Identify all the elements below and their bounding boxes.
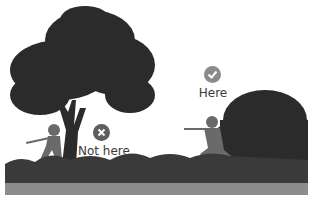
good-position-label: Here xyxy=(198,86,228,100)
bad-position-label: Not here xyxy=(78,144,128,158)
ground xyxy=(5,183,308,195)
ground-shrubs xyxy=(5,153,308,185)
scene-illustration xyxy=(0,0,313,207)
checkmark-icon xyxy=(204,66,221,83)
soldier-behind-tree xyxy=(26,124,62,160)
cross-icon xyxy=(93,124,110,141)
